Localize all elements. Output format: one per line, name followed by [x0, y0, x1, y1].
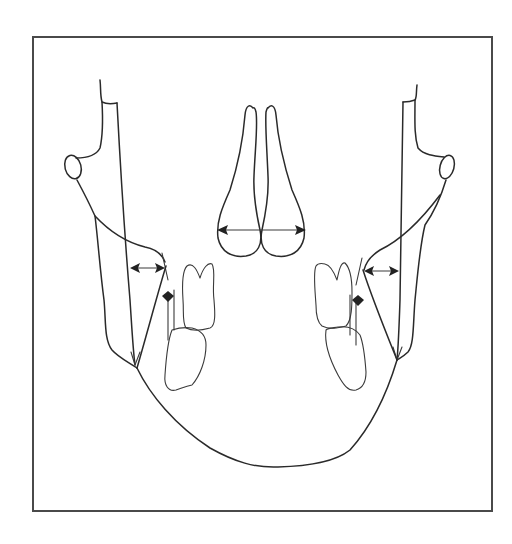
- diagram-figure: [0, 0, 512, 544]
- left-molars: [162, 264, 215, 391]
- right-ramus: [356, 85, 457, 360]
- diamond-marker-icon: [162, 291, 174, 302]
- mandible-diagram: [0, 0, 512, 544]
- nasal-cavity: [217, 106, 306, 257]
- right-molars: [314, 263, 366, 390]
- diamond-marker-icon: [352, 295, 364, 306]
- mandible-outline: [137, 360, 397, 467]
- left-ramus: [62, 80, 168, 368]
